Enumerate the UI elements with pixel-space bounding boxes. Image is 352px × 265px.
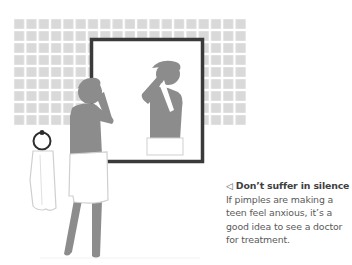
caption-title: Don’t suffer in silence bbox=[236, 180, 350, 191]
caption-body: If pimples are making a teen feel anxiou… bbox=[226, 193, 352, 246]
towel-ring bbox=[30, 130, 56, 210]
boy-towel bbox=[69, 152, 108, 203]
caption: ◁Don’t suffer in silence If pimples are … bbox=[226, 179, 352, 246]
caption-title-row: ◁Don’t suffer in silence bbox=[226, 179, 352, 193]
mirror bbox=[90, 38, 204, 163]
left-arrow-icon: ◁ bbox=[226, 181, 233, 191]
